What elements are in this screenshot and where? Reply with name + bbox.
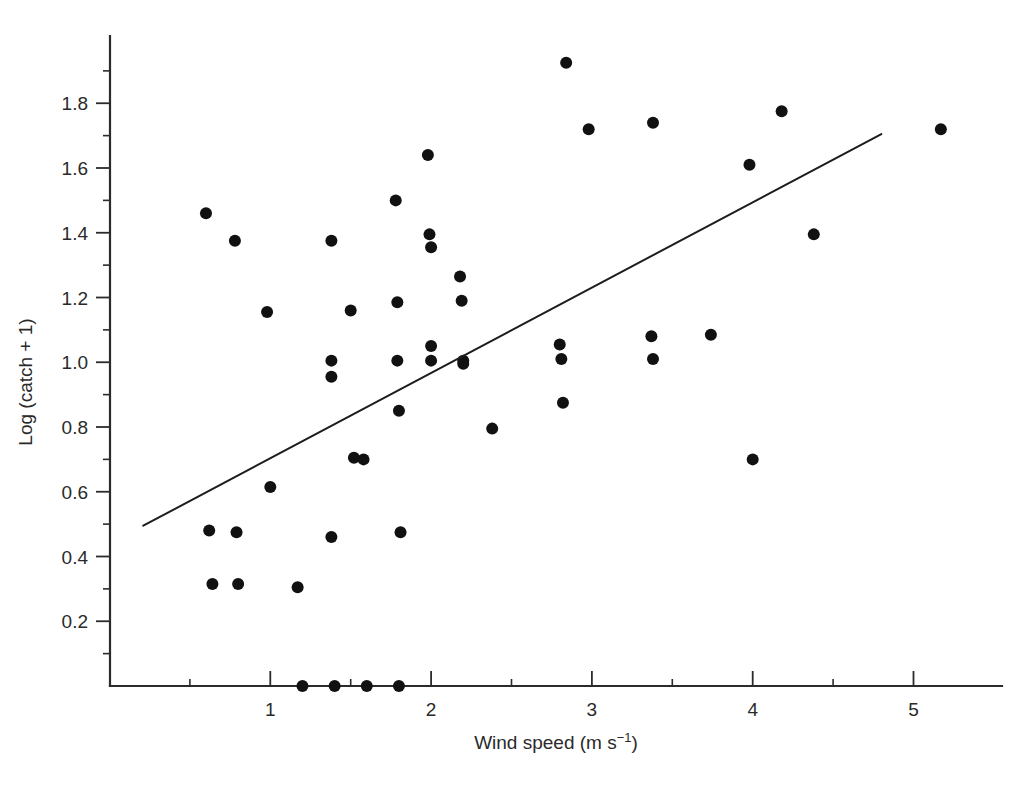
- data-point: [776, 105, 788, 117]
- regression-line: [143, 134, 881, 526]
- data-point: [391, 296, 403, 308]
- data-point: [808, 228, 820, 240]
- data-point: [203, 525, 215, 537]
- data-point: [329, 680, 341, 692]
- data-point: [554, 338, 566, 350]
- y-tick-label: 1.0: [62, 352, 88, 373]
- data-point: [325, 371, 337, 383]
- data-point: [456, 295, 468, 307]
- data-point: [555, 353, 567, 365]
- data-point: [358, 453, 370, 465]
- data-point: [647, 353, 659, 365]
- data-point: [422, 149, 434, 161]
- data-point: [647, 117, 659, 129]
- data-point: [345, 304, 357, 316]
- data-point: [292, 581, 304, 593]
- y-tick-label: 0.6: [62, 482, 88, 503]
- x-tick-label: 3: [587, 699, 598, 720]
- data-point: [935, 123, 947, 135]
- data-point: [231, 526, 243, 538]
- y-axis-title: Log (catch + 1): [15, 318, 36, 445]
- data-point: [206, 578, 218, 590]
- data-point: [454, 270, 466, 282]
- data-point: [457, 358, 469, 370]
- data-point: [425, 355, 437, 367]
- y-tick-group: 0.20.40.60.81.01.21.41.61.8: [62, 93, 110, 632]
- data-point: [264, 481, 276, 493]
- y-tick-label: 1.8: [62, 93, 88, 114]
- data-point: [261, 306, 273, 318]
- y-tick-label: 1.6: [62, 158, 88, 179]
- data-point: [705, 329, 717, 341]
- x-axis-title: Wind speed (m s−1): [474, 730, 638, 753]
- data-point: [325, 531, 337, 543]
- data-point: [423, 228, 435, 240]
- y-tick-label: 1.2: [62, 288, 88, 309]
- data-point: [583, 123, 595, 135]
- y-tick-label: 0.8: [62, 417, 88, 438]
- data-point: [425, 241, 437, 253]
- y-tick-label: 1.4: [62, 223, 89, 244]
- data-point: [390, 194, 402, 206]
- data-point: [560, 57, 572, 69]
- data-point: [391, 355, 403, 367]
- scatter-plot-figure: 0.20.40.60.81.01.21.41.61.8 12345 Wind s…: [0, 0, 1011, 798]
- data-point: [325, 235, 337, 247]
- x-tick-label: 1: [265, 699, 276, 720]
- x-tick-label: 4: [747, 699, 758, 720]
- data-point: [645, 330, 657, 342]
- y-tick-label: 0.4: [62, 547, 89, 568]
- data-point: [200, 207, 212, 219]
- data-point: [229, 235, 241, 247]
- data-point: [747, 453, 759, 465]
- plot-canvas: 0.20.40.60.81.01.21.41.61.8 12345 Wind s…: [0, 0, 1011, 798]
- x-tick-group: 12345: [265, 671, 919, 720]
- data-point: [232, 578, 244, 590]
- data-point: [325, 355, 337, 367]
- data-point: [393, 405, 405, 417]
- data-point: [393, 680, 405, 692]
- data-point: [296, 680, 308, 692]
- data-point: [425, 340, 437, 352]
- data-point: [743, 159, 755, 171]
- data-point: [361, 680, 373, 692]
- data-point: [395, 526, 407, 538]
- data-point: [486, 423, 498, 435]
- x-tick-label: 5: [908, 699, 919, 720]
- x-tick-label: 2: [426, 699, 437, 720]
- data-point: [557, 397, 569, 409]
- y-tick-label: 0.2: [62, 611, 88, 632]
- data-point-group: [200, 57, 947, 692]
